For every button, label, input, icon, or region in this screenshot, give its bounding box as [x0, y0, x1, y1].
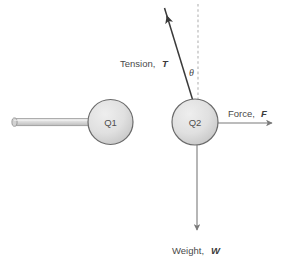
weight-label-symbol: W: [211, 245, 221, 256]
tension-string-upper: [165, 8, 169, 21]
force-label-symbol: F: [261, 108, 267, 119]
sphere-q1-label: Q1: [104, 117, 117, 128]
sphere-q2-label: Q2: [189, 117, 202, 128]
diagram-canvas: Q1 Q2 θ Tension, T Force, F Weight, W: [0, 0, 281, 264]
rod-end-cap: [12, 118, 17, 126]
theta-angle-symbol: θ: [189, 67, 194, 78]
weight-label: Weight, W: [172, 245, 221, 256]
tension-label: Tension, T: [120, 58, 169, 69]
tension-vector-line: [167, 16, 193, 101]
force-label: Force, F: [228, 108, 267, 119]
tension-label-symbol: T: [162, 58, 169, 69]
rod-shaft: [14, 119, 92, 126]
physics-force-diagram: Q1 Q2 θ Tension, T Force, F Weight, W: [0, 0, 281, 264]
sphere-q2[interactable]: Q2: [172, 99, 218, 145]
tension-label-prefix: Tension,: [120, 58, 155, 69]
force-label-prefix: Force,: [228, 108, 255, 119]
support-rod: [12, 118, 92, 126]
sphere-q1[interactable]: Q1: [88, 100, 133, 145]
weight-label-prefix: Weight,: [172, 245, 204, 256]
